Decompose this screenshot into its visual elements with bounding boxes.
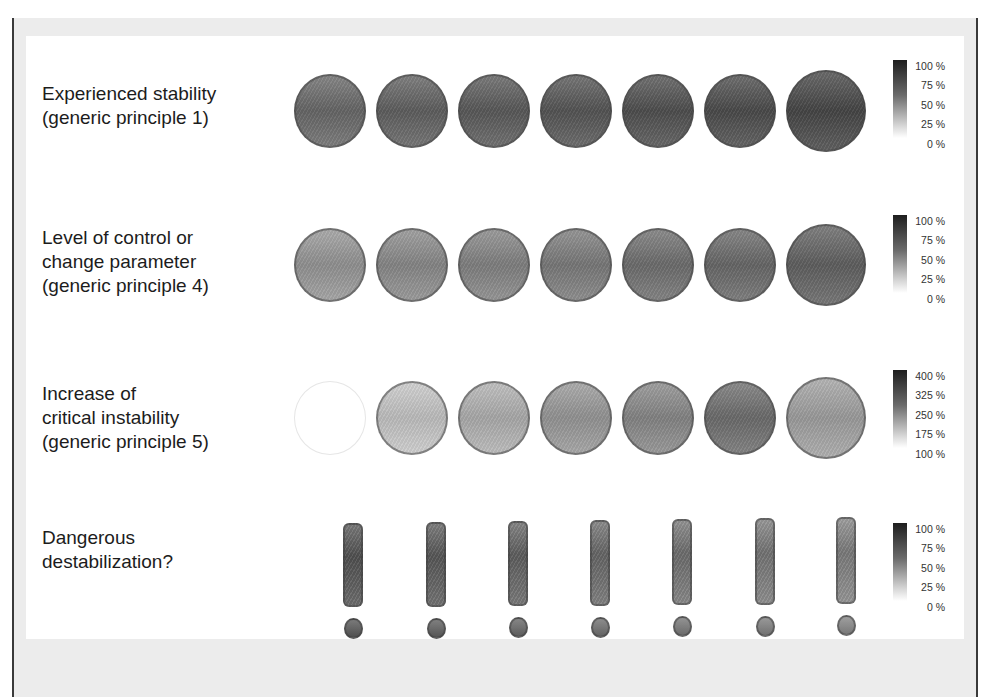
level-circle-icon — [622, 381, 694, 455]
exclamation-dot-icon — [673, 616, 692, 637]
exclamation-dot-icon — [427, 618, 446, 639]
level-circle-icon — [458, 74, 530, 148]
level-circle-icon — [622, 74, 694, 148]
row-label-control-parameter: Level of control or change parameter (ge… — [42, 226, 209, 298]
level-circle-icon — [786, 377, 866, 459]
exclamation-bar-icon — [672, 519, 692, 605]
level-circle-icon — [294, 381, 366, 455]
exclamation-bar-icon — [590, 520, 610, 606]
exclamation-dot-icon — [591, 617, 610, 638]
legend-instability: 400 % 325 % 250 % 175 % 100 % — [893, 370, 973, 462]
level-circle-icon — [786, 224, 866, 306]
level-circle-icon — [458, 381, 530, 455]
exclamation-bar-icon — [836, 517, 856, 604]
legend-tick: 75 % — [905, 542, 945, 554]
legend-tick: 0 % — [905, 138, 945, 150]
legend-tick: 100 % — [905, 215, 945, 227]
level-circle-icon — [704, 228, 776, 302]
row-label-experienced-stability: Experienced stability (generic principle… — [42, 82, 216, 130]
legend-tick: 75 % — [905, 234, 945, 246]
legend-tick: 100 % — [905, 448, 945, 460]
legend-tick: 175 % — [905, 428, 945, 440]
level-circle-icon — [294, 228, 366, 302]
level-circle-icon — [622, 228, 694, 302]
level-circle-icon — [540, 74, 612, 148]
exclamation-dot-icon — [344, 618, 363, 639]
row-label-critical-instability: Increase of critical instability (generi… — [42, 382, 209, 454]
exclamation-bar-icon — [426, 522, 446, 607]
level-circle-icon — [540, 228, 612, 302]
exclamation-dot-icon — [509, 617, 528, 638]
legend-tick: 0 % — [905, 601, 945, 613]
legend-tick: 75 % — [905, 79, 945, 91]
legend-tick: 50 % — [905, 562, 945, 574]
exclamation-dot-icon — [837, 615, 856, 636]
level-circle-icon — [376, 381, 448, 455]
level-circle-icon — [704, 74, 776, 148]
legend-tick: 25 % — [905, 273, 945, 285]
level-circle-icon — [376, 228, 448, 302]
exclamation-bar-icon — [343, 523, 363, 607]
level-circle-icon — [540, 381, 612, 455]
level-circle-icon — [704, 381, 776, 455]
legend-tick: 50 % — [905, 99, 945, 111]
legend-tick: 25 % — [905, 581, 945, 593]
legend-tick: 250 % — [905, 409, 945, 421]
exclamation-bar-icon — [508, 521, 528, 606]
exclamation-dot-icon — [756, 616, 775, 637]
level-circle-icon — [294, 74, 366, 148]
legend-tick: 50 % — [905, 254, 945, 266]
legend-tick: 0 % — [905, 293, 945, 305]
legend-stability: 100 % 75 % 50 % 25 % 0 % — [893, 60, 973, 152]
row-label-dangerous-destabilization: Dangerous destabilization? — [42, 526, 173, 574]
legend-destabilization: 100 % 75 % 50 % 25 % 0 % — [893, 523, 973, 615]
legend-tick: 325 % — [905, 389, 945, 401]
level-circle-icon — [458, 228, 530, 302]
level-circle-icon — [786, 70, 866, 152]
legend-tick: 100 % — [905, 60, 945, 72]
legend-tick: 400 % — [905, 370, 945, 382]
exclamation-bar-icon — [755, 518, 775, 605]
level-circle-icon — [376, 74, 448, 148]
legend-tick: 25 % — [905, 118, 945, 130]
legend-control: 100 % 75 % 50 % 25 % 0 % — [893, 215, 973, 307]
legend-tick: 100 % — [905, 523, 945, 535]
